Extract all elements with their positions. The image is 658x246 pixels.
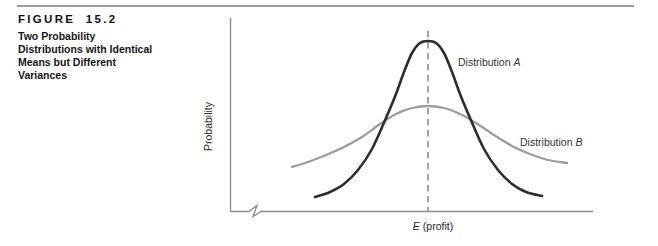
distribution-b-label-prefix: Distribution <box>520 136 573 148</box>
distribution-a-label: DistributionA <box>458 56 521 68</box>
distribution-b-label: DistributionB <box>520 136 583 148</box>
probability-distributions-chart <box>0 0 658 246</box>
x-axis-line <box>230 206 593 217</box>
figure-page: FIGURE 15.2 Two Probability Distribution… <box>0 0 658 246</box>
x-axis-label: E(profit) <box>393 220 473 232</box>
distribution-a-label-letter: A <box>514 56 521 68</box>
distribution-a-label-prefix: Distribution <box>458 56 511 68</box>
x-axis-label-rest: (profit) <box>423 220 453 232</box>
y-axis-label: Probability <box>202 101 215 153</box>
x-axis-label-symbol: E <box>413 220 420 232</box>
distribution-b-label-letter: B <box>576 136 583 148</box>
